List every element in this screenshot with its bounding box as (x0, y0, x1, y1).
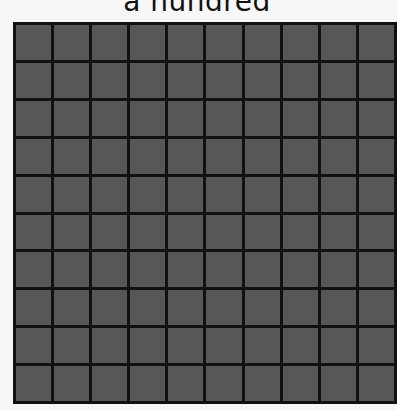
grid-cell (168, 366, 203, 401)
grid-cell (321, 101, 356, 136)
diagram-title: a hundred (0, 0, 394, 18)
grid-cell (130, 366, 165, 401)
grid-cell (359, 139, 394, 174)
grid-cell (54, 366, 89, 401)
grid-cell (206, 252, 241, 287)
grid-cell (321, 252, 356, 287)
grid-cell (359, 252, 394, 287)
grid-cell (245, 101, 280, 136)
grid-cell (168, 215, 203, 250)
grid-cell (54, 25, 89, 60)
grid-cell (54, 252, 89, 287)
grid-cell (283, 328, 318, 363)
grid-cell (130, 25, 165, 60)
grid-cell (359, 63, 394, 98)
grid-cell (168, 63, 203, 98)
grid-cell (206, 139, 241, 174)
grid-cell (54, 177, 89, 212)
grid-cell (54, 101, 89, 136)
grid-cell (245, 177, 280, 212)
grid-cell (54, 139, 89, 174)
grid-cell (92, 177, 127, 212)
grid-cell (130, 215, 165, 250)
grid-cell (168, 139, 203, 174)
grid-cell (321, 290, 356, 325)
grid-cell (92, 25, 127, 60)
grid-cell (206, 328, 241, 363)
grid-cell (283, 252, 318, 287)
grid-cell (245, 290, 280, 325)
grid-cell (283, 139, 318, 174)
grid-cell (283, 63, 318, 98)
grid-cell (206, 215, 241, 250)
grid-cell (245, 63, 280, 98)
grid-cell (283, 215, 318, 250)
grid-cell (92, 252, 127, 287)
grid-cell (321, 215, 356, 250)
grid-cell (168, 25, 203, 60)
grid-cell (16, 328, 51, 363)
grid-cell (245, 366, 280, 401)
grid-cell (206, 25, 241, 60)
grid-cell (130, 63, 165, 98)
grid-cell (92, 290, 127, 325)
grid-cell (130, 139, 165, 174)
grid-cell (283, 101, 318, 136)
grid-cell (283, 25, 318, 60)
grid-cell (206, 177, 241, 212)
grid-cell (16, 215, 51, 250)
grid-cell (16, 25, 51, 60)
grid-cell (206, 290, 241, 325)
grid-cell (16, 366, 51, 401)
grid-cell (245, 328, 280, 363)
hundred-grid (13, 22, 397, 404)
grid-cell (321, 177, 356, 212)
grid-cell (54, 290, 89, 325)
grid-cell (168, 101, 203, 136)
grid-cell (283, 290, 318, 325)
grid-cell (321, 328, 356, 363)
grid-cell (359, 366, 394, 401)
grid-cell (168, 177, 203, 212)
grid-cell (359, 101, 394, 136)
grid-cell (321, 25, 356, 60)
grid-cell (16, 139, 51, 174)
grid-cell (168, 328, 203, 363)
grid-cell (54, 328, 89, 363)
grid-cell (16, 252, 51, 287)
grid-cell (130, 252, 165, 287)
grid-cell (321, 139, 356, 174)
grid-cell (359, 25, 394, 60)
grid-cell (283, 177, 318, 212)
grid-cell (245, 215, 280, 250)
grid-cell (16, 101, 51, 136)
grid-cell (245, 139, 280, 174)
grid-cell (130, 177, 165, 212)
grid-cell (206, 101, 241, 136)
grid-cell (359, 328, 394, 363)
grid-cell (16, 290, 51, 325)
grid-cell (54, 215, 89, 250)
grid-cell (130, 101, 165, 136)
grid-cell (168, 252, 203, 287)
grid-cell (206, 366, 241, 401)
grid-cell (359, 290, 394, 325)
grid-cell (16, 177, 51, 212)
grid-cell (92, 215, 127, 250)
grid-cell (130, 290, 165, 325)
grid-cell (92, 63, 127, 98)
grid-cell (245, 25, 280, 60)
grid-cell (245, 252, 280, 287)
grid-cell (92, 366, 127, 401)
grid-cell (92, 101, 127, 136)
grid-cell (359, 215, 394, 250)
grid-cell (283, 366, 318, 401)
grid-cell (321, 63, 356, 98)
grid-cell (359, 177, 394, 212)
grid-cell (321, 366, 356, 401)
grid-cell (54, 63, 89, 98)
grid-cell (16, 63, 51, 98)
grid-cell (168, 290, 203, 325)
grid-cell (130, 328, 165, 363)
grid-cell (206, 63, 241, 98)
